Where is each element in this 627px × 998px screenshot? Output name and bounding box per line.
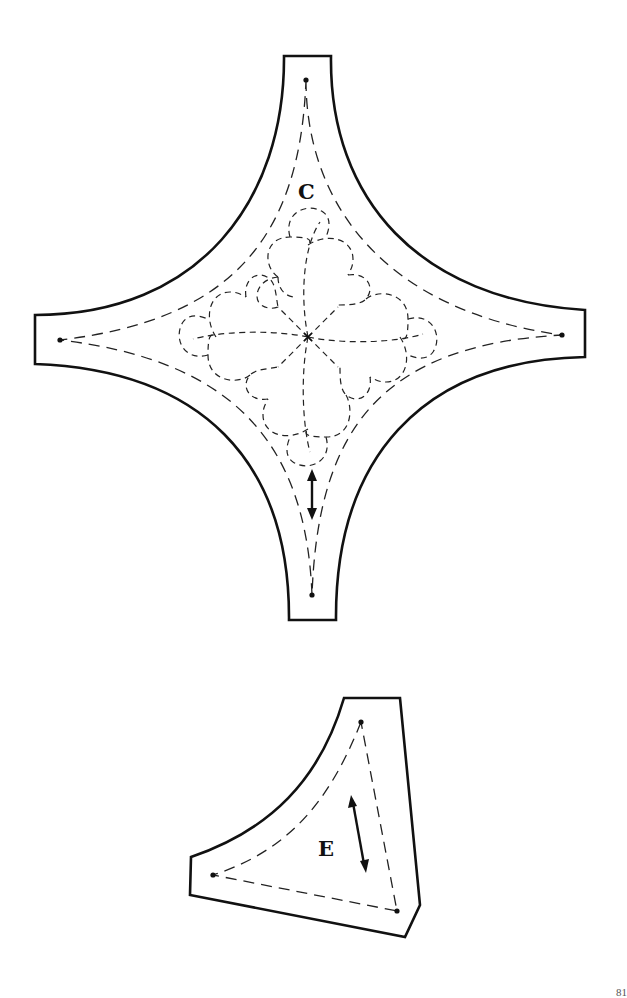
seam-dot-top bbox=[358, 719, 363, 724]
seam-dot-bottom-right bbox=[394, 908, 399, 913]
piece-c-label: C bbox=[298, 179, 315, 204]
seam-dot-bottom bbox=[309, 592, 314, 597]
piece-c: C bbox=[35, 56, 585, 620]
seam-dot-left bbox=[210, 872, 215, 877]
piece-e: E bbox=[190, 698, 420, 937]
page-number: 81 bbox=[616, 986, 627, 998]
seam-dot-top bbox=[303, 77, 308, 82]
piece-e-label: E bbox=[318, 836, 334, 861]
seam-dot-left bbox=[57, 337, 62, 342]
seam-dot-right bbox=[559, 332, 564, 337]
